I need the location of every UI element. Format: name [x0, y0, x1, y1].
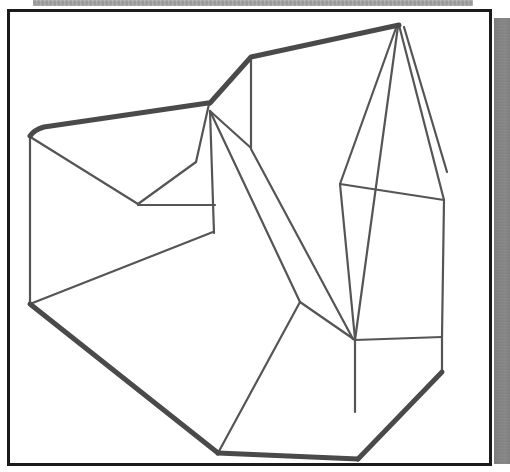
edge-right-facet-lower — [442, 200, 444, 337]
edge-left-face-divider — [30, 232, 213, 304]
scanned-page: Wireframe drawing of a polyhedral solid — [0, 0, 510, 472]
edge-prism-left — [251, 149, 353, 339]
edge-hub-fan-3 — [210, 111, 251, 148]
polyhedral-solid-wireframe — [10, 12, 495, 469]
edge-right-facet-inner — [404, 27, 447, 172]
edge-right-facet-outer — [399, 25, 444, 200]
edge-plinth-top-left — [300, 302, 355, 340]
edge-ridge-to-hub — [196, 104, 209, 162]
edge-prism-right — [355, 26, 398, 340]
scan-noise-band-icon — [33, 0, 473, 6]
drawing-border — [7, 9, 492, 466]
silhouette-bottom — [218, 453, 358, 459]
silhouette-top-ridge — [210, 25, 399, 103]
edge-right-mid-fold — [340, 184, 444, 200]
edge-plinth-top-right — [355, 337, 442, 340]
edge-k-to-plinth — [340, 184, 355, 339]
edge-notch-left — [32, 138, 138, 204]
edge-hub-fan-2 — [210, 111, 300, 302]
silhouette-top-left — [30, 103, 208, 136]
edge-plinth-front-left — [218, 302, 300, 453]
edge-notch-right — [138, 162, 196, 204]
silhouette-bottom-left — [30, 304, 218, 453]
silhouette-bottom-right — [358, 372, 442, 459]
scan-edge-shadow-icon — [494, 18, 510, 464]
edge-hub-fan-1 — [210, 111, 214, 233]
